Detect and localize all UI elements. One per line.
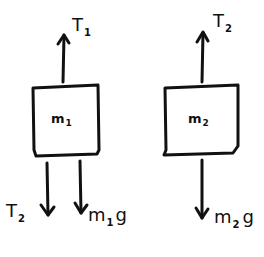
arrow-up-T1: [63, 35, 64, 82]
label-T2-right-sub: 2: [225, 23, 232, 34]
label-T2-left-main: T: [6, 200, 17, 221]
label-T2-right-main: T: [213, 10, 224, 31]
arrow-down-m1g: [80, 161, 81, 213]
label-m1-main: m: [51, 111, 65, 126]
label-m2-sub: 2: [203, 118, 209, 128]
label-T2-right: T2: [213, 12, 232, 30]
arrow-down-T2-left: [47, 163, 48, 215]
label-T1: T1: [72, 16, 91, 34]
label-m1-sub: 1: [66, 118, 72, 128]
label-m1g-sub: 1: [107, 217, 114, 228]
label-T2-left: T2: [6, 202, 25, 220]
label-m2g-tail: g: [243, 206, 254, 227]
label-m2g-main: m: [214, 206, 232, 227]
label-m1g-main: m: [88, 204, 106, 225]
label-m2g: m2g: [214, 208, 254, 226]
label-m2: m2: [188, 112, 209, 125]
label-m2g-sub: 2: [233, 219, 240, 230]
label-m1g: m1g: [88, 206, 127, 224]
label-m2-main: m: [188, 111, 202, 126]
label-m1g-tail: g: [116, 204, 127, 225]
label-m1: m1: [51, 112, 72, 125]
label-T1-sub: 1: [84, 27, 91, 38]
arrow-up-T2-right: [202, 33, 203, 82]
label-T2-left-sub: 2: [18, 213, 25, 224]
label-T1-main: T: [72, 14, 83, 35]
